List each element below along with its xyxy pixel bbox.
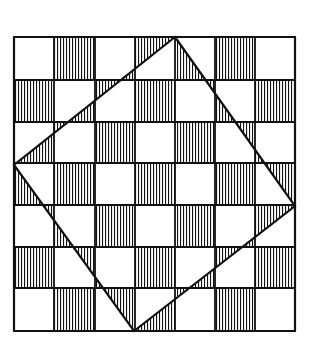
hatched-cell (135, 205, 175, 247)
hatched-cell (255, 37, 295, 80)
hatched-cell (95, 163, 135, 205)
hatched-cell (14, 80, 54, 122)
hatched-cell (215, 37, 255, 80)
checkerboard-figure (0, 0, 309, 348)
hatched-cell (54, 288, 95, 331)
hatched-cell (175, 247, 215, 288)
hatched-cell (135, 122, 175, 163)
hatched-cell (175, 163, 215, 205)
hatched-cell (175, 37, 215, 80)
hatched-cell (95, 205, 135, 247)
hatched-cell (14, 288, 54, 331)
inside-hatched-cells (14, 37, 295, 331)
hatched-cell (95, 247, 135, 288)
hatched-cell (135, 247, 175, 288)
hatched-cell (255, 80, 295, 122)
hatched-cell (215, 288, 255, 331)
hatched-cell (14, 247, 54, 288)
hatched-cell (255, 247, 295, 288)
hatched-cell (135, 80, 175, 122)
hatched-cell (54, 37, 95, 80)
hatched-cell (54, 205, 95, 247)
hatched-cell (135, 37, 175, 80)
hatched-cell (95, 80, 135, 122)
hatched-cell (175, 205, 215, 247)
hatched-cell (255, 288, 295, 331)
hatched-cell (135, 163, 175, 205)
hatched-cell (14, 37, 54, 80)
hatched-cell (14, 122, 54, 163)
hatched-cell (54, 163, 95, 205)
hatched-cell (175, 122, 215, 163)
hatched-cell (95, 122, 135, 163)
hatched-cell (14, 163, 54, 205)
hatched-cell (215, 163, 255, 205)
